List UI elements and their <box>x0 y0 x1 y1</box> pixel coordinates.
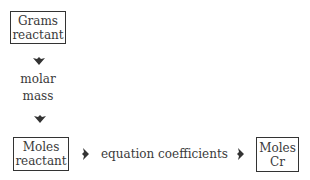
edge-label-line2: mass <box>15 89 61 103</box>
node-label-line1: Moles <box>257 141 298 155</box>
node-label-line1: Moles <box>14 140 68 154</box>
arrow-right-icon <box>82 148 89 160</box>
node-label-line1: Grams <box>11 14 65 28</box>
node-label-line2: reactant <box>11 28 65 42</box>
node-label-line2: reactant <box>14 154 68 168</box>
node-grams-reactant: Grams reactant <box>10 11 66 44</box>
edge-label-molar-mass: molar mass <box>15 72 61 103</box>
edge-label-equation-coefficients: equation coefficients <box>101 147 227 161</box>
arrow-right-icon <box>237 148 244 160</box>
node-moles-reactant: Moles reactant <box>13 137 69 171</box>
edge-label-line1: molar <box>15 72 61 86</box>
node-moles-cr: Moles Cr <box>256 137 299 172</box>
node-label-line2: Cr <box>257 155 298 169</box>
